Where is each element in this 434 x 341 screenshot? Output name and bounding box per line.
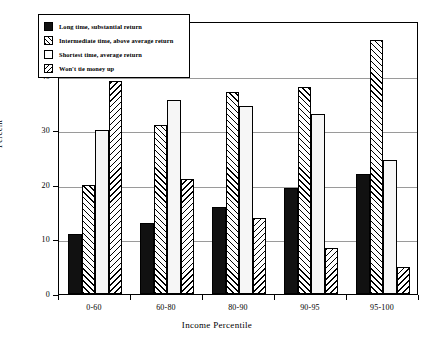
- bar: [95, 130, 109, 294]
- bar: [167, 100, 181, 294]
- legend-swatch-solid-icon: [44, 22, 53, 31]
- legend-swatch-hatchback-icon: [44, 64, 53, 73]
- legend-swatch-plain-icon: [44, 50, 53, 59]
- bar: [109, 81, 123, 294]
- x-axis-tick-label: 95-100: [346, 303, 418, 312]
- y-axis-title: Percent: [0, 120, 4, 148]
- bar: [212, 207, 226, 294]
- bar: [298, 87, 312, 294]
- y-axis-tick-label: 10: [24, 235, 50, 244]
- legend-item-label: Shortest time, average return: [59, 51, 142, 58]
- bar: [181, 179, 195, 294]
- chart-legend: Long time, substantial returnIntermediat…: [38, 14, 190, 78]
- chart-figure: Percent 01020304050 0-6060-8080-9090-959…: [0, 0, 434, 341]
- x-axis-tick-label: 60-80: [130, 303, 202, 312]
- y-axis-tick-label: 20: [24, 181, 50, 190]
- x-axis-tick-label: 90-95: [274, 303, 346, 312]
- legend-item: Intermediate time, above average return: [44, 33, 185, 47]
- bar: [226, 92, 240, 294]
- bar: [68, 234, 82, 294]
- bar: [154, 125, 168, 294]
- legend-item-label: Won't tie money up: [59, 65, 114, 72]
- x-axis-tick-mark: [418, 295, 419, 300]
- x-axis-tick-mark: [346, 295, 347, 300]
- x-axis-tick-label: 0-60: [58, 303, 130, 312]
- x-axis-tick-mark: [274, 295, 275, 300]
- legend-item: Shortest time, average return: [44, 47, 185, 61]
- x-axis-tick-mark: [58, 295, 59, 300]
- bar: [140, 223, 154, 294]
- bar: [356, 174, 370, 294]
- x-axis-title: Income Percentile: [0, 320, 434, 330]
- bar: [311, 114, 325, 294]
- legend-item-label: Intermediate time, above average return: [59, 37, 173, 44]
- y-axis-tick-label: 30: [24, 126, 50, 135]
- bar: [383, 160, 397, 294]
- bar: [253, 218, 267, 294]
- bar: [239, 106, 253, 294]
- x-axis-tick-mark: [130, 295, 131, 300]
- bar: [370, 40, 384, 294]
- bar: [82, 185, 96, 294]
- legend-item: Long time, substantial return: [44, 19, 185, 33]
- y-axis-tick-label: 0: [24, 290, 50, 299]
- bar: [397, 267, 411, 294]
- legend-item: Won't tie money up: [44, 61, 185, 75]
- legend-item-label: Long time, substantial return: [59, 23, 142, 30]
- legend-swatch-hatchfwd-icon: [44, 36, 53, 45]
- bar: [325, 248, 339, 294]
- x-axis-tick-label: 80-90: [202, 303, 274, 312]
- x-axis-tick-mark: [202, 295, 203, 300]
- bar: [284, 188, 298, 294]
